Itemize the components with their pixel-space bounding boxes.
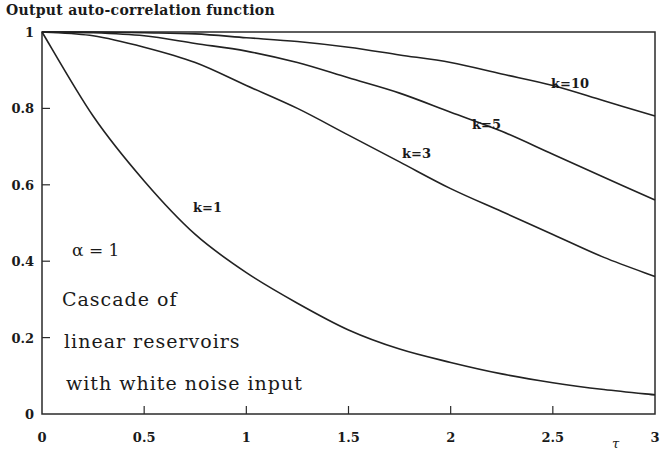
x-tick-label: 1.5 [337,430,360,445]
curve-k-3 [42,32,655,276]
caption-line-2: linear reservoirs [64,330,241,352]
curve-label-k5: k=5 [472,117,501,132]
curve-label-k10: k=10 [551,76,589,91]
x-tick-label: 1 [242,430,251,445]
x-axis-label: τ [612,436,619,451]
curve-k-5 [42,32,655,200]
x-tick-label: 0.5 [133,430,156,445]
x-tick-label: 0 [37,430,46,445]
caption-line-1: Cascade of [62,288,178,310]
x-tick-label: 2.5 [542,430,565,445]
alpha-annotation: α = 1 [72,240,119,260]
caption-line-3: with white noise input [66,372,303,394]
y-tick-label: 1 [25,25,34,40]
x-tick-label: 2 [446,430,455,445]
y-tick-label: 0.2 [11,331,34,346]
y-tick-label: 0 [25,407,34,422]
y-tick-label: 0.4 [11,254,34,269]
curve-label-k3: k=3 [402,146,431,161]
x-tick-label: 3 [650,430,659,445]
y-tick-label: 0.8 [11,101,34,116]
curve-label-k1: k=1 [193,200,222,215]
y-tick-label: 0.6 [11,178,34,193]
